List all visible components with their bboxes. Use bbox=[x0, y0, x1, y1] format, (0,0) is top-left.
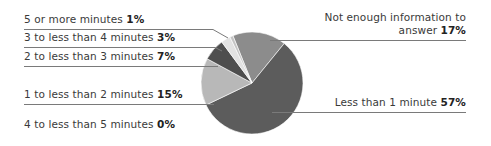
label-percent: 7% bbox=[157, 50, 175, 62]
label-one-to-two-minutes: 1 to less than 2 minutes 15% bbox=[24, 88, 183, 101]
pie-slices bbox=[201, 32, 303, 134]
label-text: Less than 1 minute bbox=[335, 96, 441, 108]
label-percent: 0% bbox=[157, 118, 175, 130]
label-not-enough-information: Not enough information to answer 17% bbox=[324, 11, 466, 37]
label-percent: 3% bbox=[157, 31, 175, 43]
label-text-line2: answer bbox=[399, 24, 441, 36]
label-three-to-four-minutes: 3 to less than 4 minutes 3% bbox=[24, 31, 175, 44]
label-five-plus-minutes: 5 or more minutes 1% bbox=[24, 13, 144, 26]
label-text: 5 or more minutes bbox=[24, 13, 126, 25]
label-text: 2 to less than 3 minutes bbox=[24, 50, 157, 62]
label-percent: 15% bbox=[157, 88, 182, 100]
label-percent: 17% bbox=[441, 24, 466, 36]
label-four-to-five-minutes: 4 to less than 5 minutes 0% bbox=[24, 118, 175, 131]
label-percent: 1% bbox=[126, 13, 144, 25]
label-text-line1: Not enough information to bbox=[324, 11, 466, 24]
label-text: 1 to less than 2 minutes bbox=[24, 88, 157, 100]
label-text: 4 to less than 5 minutes bbox=[24, 118, 157, 130]
label-percent: 57% bbox=[441, 96, 466, 108]
label-less-than-one-minute: Less than 1 minute 57% bbox=[335, 96, 466, 109]
label-two-to-three-minutes: 2 to less than 3 minutes 7% bbox=[24, 50, 175, 63]
label-text: 3 to less than 4 minutes bbox=[24, 31, 157, 43]
